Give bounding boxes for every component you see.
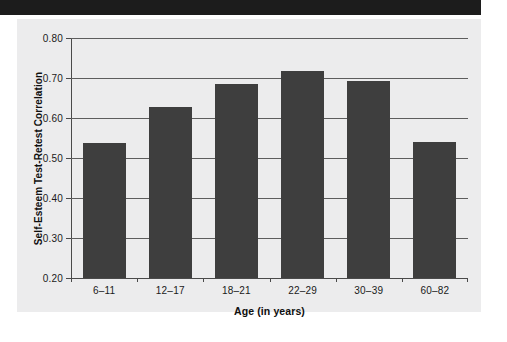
y-axis-tick [66,38,71,39]
x-axis-tick-label: 6–11 [93,285,115,296]
bar-fill [281,71,324,278]
gridline [71,38,468,39]
chart-figure: Self-Esteem Test-Retest Correlation 0.20… [17,19,481,312]
x-axis-title: Age (in years) [71,305,468,317]
bar [347,38,390,278]
x-axis-tick-label: 12–17 [156,285,185,296]
x-axis-tick [203,278,204,282]
gridline [71,238,468,239]
bar [149,38,192,278]
y-axis-tick-label: 0.70 [43,73,63,84]
y-axis-tick-label: 0.60 [43,113,63,124]
gridline [71,198,468,199]
bar [413,38,456,278]
bar [281,38,324,278]
x-axis-tick [336,278,337,282]
y-axis-tick-label: 0.40 [43,193,63,204]
x-axis-tick-label: 30–39 [354,285,383,296]
y-axis-tick [66,238,71,239]
plot-area: 0.200.300.400.500.600.700.80 6–1112–1718… [71,38,468,278]
top-banner-strip [0,0,481,15]
x-axis-tick-label: 22–29 [288,285,317,296]
y-axis-tick-label: 0.30 [43,233,63,244]
bar-fill [215,84,258,278]
y-axis-tick [66,158,71,159]
bar-shadow [456,145,460,281]
gridline [71,158,468,159]
y-axis-tick-label: 0.80 [43,33,63,44]
bar-fill [149,107,192,278]
x-axis-tick [137,278,138,282]
y-axis-tick [66,118,71,119]
x-axis-tick-label: 18–21 [222,285,251,296]
x-axis-tick [71,278,72,282]
y-axis-tick [66,198,71,199]
bar-shadow [258,87,262,281]
gridline [71,118,468,119]
bar [215,38,258,278]
bar-fill [83,143,126,278]
y-axis-tick [66,78,71,79]
bar-shadow [192,110,196,281]
y-axis-tick-label: 0.20 [43,273,63,284]
y-axis-tick-label: 0.50 [43,153,63,164]
x-axis-tick [402,278,403,282]
bar-fill [347,81,390,278]
x-axis-tick-label: 60–82 [421,285,450,296]
x-axis-tick [270,278,271,282]
gridline [71,78,468,79]
bar-fill [413,142,456,278]
bar-shadow [324,74,328,281]
bar-shadow [390,84,394,281]
bar [83,38,126,278]
x-axis-tick [467,278,468,282]
bar-shadow [126,146,130,281]
